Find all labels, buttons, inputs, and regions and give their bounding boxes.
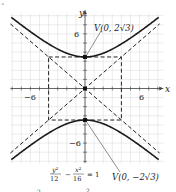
x-arrow-icon [159,87,163,91]
x-axis-label: x [165,84,170,94]
eq-denominator-left: 12 [50,175,58,183]
y-tick-6: 6 [74,30,79,39]
eq-numerator-right: x² [75,166,82,174]
top-left-fragment: ˆ [1,3,5,11]
center-dot [83,87,87,91]
x-tick-6: 6 [139,93,144,102]
lower-vertex-label: V(0, −2√3) [112,172,159,182]
eq-minus: − [65,171,71,179]
hyperbola-graph: y x −6 6 6 −6 V(0, 2√3) V(0, −2√3) y² 12… [0,0,176,192]
bottom-fragment-mid: 2 [86,187,90,192]
eq-denominator-right: 16 [73,175,81,183]
equation: y² 12 − x² 16 = 1 [50,166,100,183]
eq-equals: = 1 [87,171,100,179]
hyperbola-figure: y x −6 6 6 −6 V(0, 2√3) V(0, −2√3) y² 12… [0,0,176,192]
eq-numerator-left: y² [51,166,59,174]
bottom-fragment-left: 2 [37,188,41,192]
y-axis-label: y [78,8,85,18]
y-tick-neg6: −6 [69,139,81,148]
upper-vertex-label: V(0, 2√3) [94,23,134,33]
x-tick-neg6: −6 [24,93,36,102]
